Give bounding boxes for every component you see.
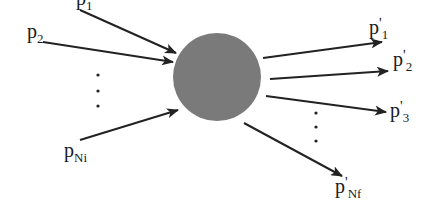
ellipsis-dot (96, 104, 99, 107)
outgoing-arrow (270, 71, 388, 79)
outgoing-momentum-label: p'1 (369, 15, 388, 42)
ellipsis-dot (96, 73, 99, 76)
outgoing-arrow (266, 96, 386, 112)
ellipsis-dot (96, 89, 99, 92)
incoming-momentum-label: pNi (64, 139, 87, 165)
incoming-particles: p1p2pNi (27, 0, 178, 165)
ellipsis-dot (314, 111, 317, 114)
ellipsis-left (96, 73, 99, 107)
incoming-particle: p1 (76, 0, 176, 53)
outgoing-arrow (263, 42, 382, 58)
incoming-momentum-label: p2 (27, 20, 44, 46)
outgoing-arrow (244, 123, 342, 176)
ellipsis-dot (314, 125, 317, 128)
outgoing-momentum-label: p'2 (393, 47, 412, 74)
outgoing-particle: p'Nf (244, 123, 362, 201)
outgoing-particle: p'2 (270, 47, 412, 79)
incoming-arrow (80, 110, 178, 140)
outgoing-momentum-label: p'Nf (335, 174, 362, 201)
outgoing-particle: p'3 (266, 96, 409, 125)
outgoing-particles: p'1p'2p'3p'Nf (244, 15, 412, 201)
scattering-diagram: p1p2pNi p'1p'2p'3p'Nf (0, 0, 433, 214)
incoming-arrow (43, 42, 173, 62)
outgoing-particle: p'1 (263, 15, 388, 58)
ellipsis-right (314, 111, 317, 142)
outgoing-momentum-label: p'3 (390, 98, 409, 125)
ellipsis-dot (314, 139, 317, 142)
incoming-particle: pNi (64, 110, 178, 165)
interaction-blob (173, 33, 261, 121)
incoming-arrow (80, 10, 176, 53)
